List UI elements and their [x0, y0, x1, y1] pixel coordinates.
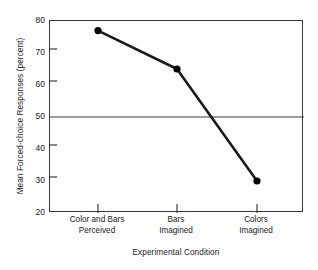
data-series-line — [98, 31, 257, 181]
x-tick-label-2-line-2: Imagined — [131, 226, 221, 237]
y-tick-label-30: 30 — [25, 176, 45, 185]
plot-svg — [50, 21, 304, 213]
x-tick-label-1-line-1: Color and Bars — [52, 215, 142, 226]
data-point-marker-2 — [173, 65, 180, 72]
x-tick-label-2: Bars Imagined — [131, 215, 221, 236]
plot-area — [49, 20, 303, 212]
y-tick-label-80: 80 — [25, 16, 45, 25]
y-tick-marks — [50, 49, 57, 177]
chart-figure: Mean Forced-choice Responses (percent) 8… — [0, 0, 318, 270]
x-tick-label-3-line-2: Imagined — [211, 226, 301, 237]
x-tick-label-1-line-2: Perceived — [52, 226, 142, 237]
x-tick-label-3-line-1: Colors — [211, 215, 301, 226]
x-tick-label-2-line-1: Bars — [131, 215, 221, 226]
y-tick-label-20: 20 — [25, 208, 45, 217]
x-axis-title: Experimental Condition — [49, 248, 303, 257]
x-tick-marks — [98, 204, 257, 213]
x-tick-label-1: Color and Bars Perceived — [52, 215, 142, 236]
y-axis-tick-labels: 80 70 60 50 40 30 20 — [23, 0, 45, 270]
x-tick-label-3: Colors Imagined — [211, 215, 301, 236]
y-tick-label-40: 40 — [25, 144, 45, 153]
y-tick-label-70: 70 — [25, 48, 45, 57]
x-axis-tick-labels: Color and Bars Perceived Bars Imagined C… — [49, 215, 303, 245]
data-point-marker-3 — [253, 177, 260, 184]
y-tick-label-50: 50 — [25, 112, 45, 121]
data-point-marker-1 — [94, 27, 101, 34]
y-tick-label-60: 60 — [25, 80, 45, 89]
